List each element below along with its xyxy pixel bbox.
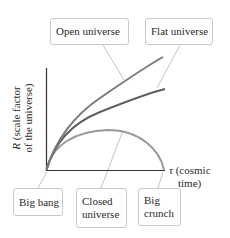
callout-big-crunch: Big crunch bbox=[138, 188, 181, 226]
leader-closed-universe bbox=[101, 133, 122, 188]
y-axis-label: R (scale factor of the universe) bbox=[10, 63, 34, 173]
x-axis-label-line2: time) bbox=[169, 177, 211, 190]
x-axis-label: τ (cosmic time) bbox=[169, 164, 211, 190]
callout-big-crunch-line2: crunch bbox=[144, 207, 174, 220]
callout-flat-universe-text: Flat universe bbox=[151, 25, 208, 38]
x-axis-label-line1: (cosmic bbox=[173, 164, 211, 176]
callout-big-crunch-line1: Big bbox=[144, 194, 160, 207]
callout-open-universe: Open universe bbox=[50, 18, 129, 45]
callout-closed-universe: Closed universe bbox=[76, 188, 127, 228]
callout-big-bang: Big bang bbox=[13, 188, 63, 216]
callout-open-universe-text: Open universe bbox=[56, 25, 120, 38]
callout-closed-universe-line1: Closed bbox=[82, 195, 113, 208]
y-axis-symbol: R bbox=[10, 143, 22, 150]
y-axis-label-line2: of the universe) bbox=[22, 63, 34, 173]
callout-closed-universe-line2: universe bbox=[82, 208, 119, 221]
leader-big-bang bbox=[38, 172, 47, 188]
leader-open-universe bbox=[103, 45, 124, 80]
open-universe-curve bbox=[47, 57, 164, 170]
callout-big-bang-text: Big bang bbox=[19, 196, 59, 209]
callout-flat-universe: Flat universe bbox=[145, 18, 213, 45]
leader-big-crunch bbox=[158, 172, 163, 188]
leader-flat-universe bbox=[157, 45, 180, 88]
y-axis-label-line1: (scale factor bbox=[10, 86, 22, 143]
